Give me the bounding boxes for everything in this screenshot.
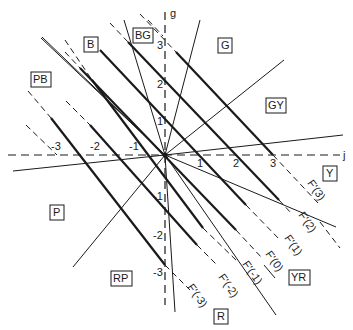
hue-label-bg: BG bbox=[133, 28, 153, 43]
hue-label-y: Y bbox=[323, 166, 337, 181]
svg-text:RP: RP bbox=[113, 272, 128, 284]
j-axis-label: j bbox=[342, 149, 345, 161]
hue-label-rp: RP bbox=[111, 271, 132, 286]
f-label-neg1: F'(-1) bbox=[240, 258, 265, 286]
svg-text:P: P bbox=[53, 206, 60, 218]
g-tick-3: 3 bbox=[157, 39, 163, 51]
g-axis-label: g bbox=[170, 7, 176, 19]
svg-text:B: B bbox=[87, 38, 94, 50]
hue-label-r: R bbox=[214, 309, 228, 324]
j-tick-3: 3 bbox=[270, 157, 276, 169]
f-label-neg2: F'(-2) bbox=[216, 271, 241, 299]
svg-text:BG: BG bbox=[135, 29, 151, 41]
g-tick-neg2: -2 bbox=[153, 229, 163, 241]
j-tick-2: 2 bbox=[233, 157, 239, 169]
svg-text:Y: Y bbox=[326, 167, 334, 179]
hue-diagram: j g -3 -2 -1 1 2 3 3 2 1 -1 -2 -3 B BG G… bbox=[0, 0, 353, 330]
origin-point bbox=[163, 153, 168, 158]
hue-label-yr: YR bbox=[289, 270, 310, 285]
g-tick-neg3: -3 bbox=[153, 266, 163, 278]
hue-label-gy: GY bbox=[266, 98, 286, 113]
svg-text:YR: YR bbox=[291, 271, 306, 283]
f-label-2: F'(2) bbox=[296, 209, 319, 234]
j-tick-neg3: -3 bbox=[51, 140, 61, 152]
svg-text:GY: GY bbox=[268, 99, 285, 111]
hue-label-pb: PB bbox=[31, 72, 51, 87]
f-label-neg3: F'(-3) bbox=[185, 281, 210, 309]
hue-label-p: P bbox=[50, 205, 64, 220]
j-tick-neg2: -2 bbox=[90, 140, 100, 152]
svg-text:R: R bbox=[217, 310, 225, 322]
f-label-1: F'(1) bbox=[282, 232, 305, 257]
svg-text:PB: PB bbox=[33, 73, 48, 85]
g-tick-2: 2 bbox=[157, 78, 163, 90]
hue-label-b: B bbox=[84, 37, 98, 52]
g-tick-neg1: -1 bbox=[153, 190, 163, 202]
j-tick-1: 1 bbox=[197, 157, 203, 169]
svg-text:G: G bbox=[221, 39, 230, 51]
j-tick-neg1: -1 bbox=[129, 140, 139, 152]
f-label-0: F'(0) bbox=[263, 248, 286, 273]
g-tick-1: 1 bbox=[157, 115, 163, 127]
hue-label-g: G bbox=[218, 38, 232, 53]
